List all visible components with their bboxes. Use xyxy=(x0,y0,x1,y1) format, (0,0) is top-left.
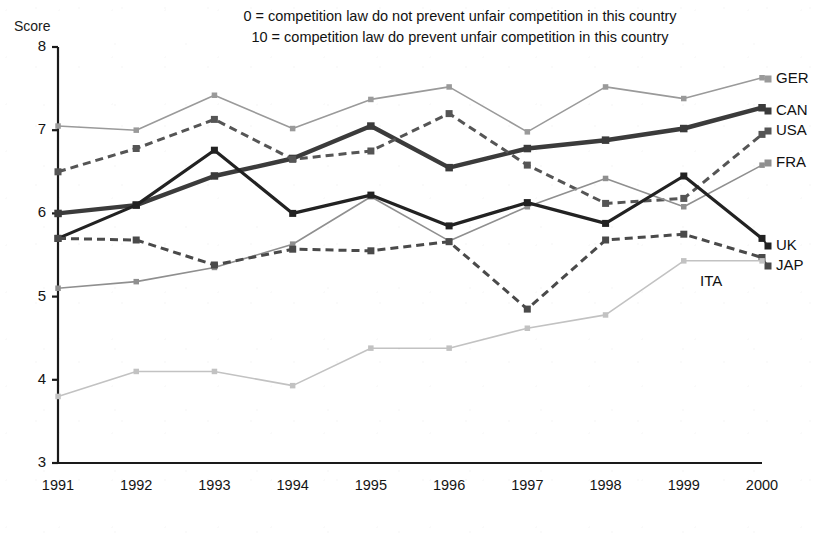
series-inline-label-ita: ITA xyxy=(700,272,722,289)
series-marker-jap xyxy=(602,237,609,244)
legend-marker-usa xyxy=(765,128,772,135)
x-tick-label: 1998 xyxy=(576,477,636,493)
series-marker-ita xyxy=(212,369,218,375)
series-marker-ita xyxy=(681,258,687,264)
series-marker-can xyxy=(54,210,62,218)
series-marker-can xyxy=(680,125,688,133)
series-marker-ger xyxy=(681,96,687,102)
series-marker-ita xyxy=(603,312,609,318)
series-marker-jap xyxy=(211,262,218,269)
series-marker-can xyxy=(445,164,453,172)
series-marker-ita xyxy=(134,369,140,375)
x-tick-label: 1992 xyxy=(106,477,166,493)
y-tick-label: 7 xyxy=(12,120,46,137)
series-label-uk: UK xyxy=(776,236,797,253)
series-marker-usa xyxy=(680,195,687,202)
series-label-ger: GER xyxy=(776,69,809,86)
series-marker-jap xyxy=(133,237,140,244)
legend-marker-can xyxy=(765,108,772,115)
series-marker-fra xyxy=(681,204,687,210)
series-marker-ita xyxy=(446,345,452,351)
series-marker-fra xyxy=(55,286,61,292)
series-marker-fra xyxy=(603,176,609,182)
y-tick-label: 3 xyxy=(12,453,46,470)
axes xyxy=(52,47,762,463)
series-marker-jap xyxy=(55,235,62,242)
series-marker-uk xyxy=(211,147,218,154)
series-marker-ger xyxy=(134,127,140,132)
series-marker-jap xyxy=(367,247,374,254)
y-tick-label: 6 xyxy=(12,203,46,220)
series-marker-uk xyxy=(524,199,531,206)
x-tick-label: 1996 xyxy=(419,477,479,493)
series-marker-ger xyxy=(525,129,531,135)
legend-marker-ger xyxy=(765,76,772,83)
x-tick-label: 1991 xyxy=(28,477,88,493)
series-marker-can xyxy=(524,145,532,153)
series-marker-uk xyxy=(602,220,609,227)
series-marker-usa xyxy=(133,145,140,152)
series-line-jap xyxy=(58,234,762,309)
series-label-can: CAN xyxy=(776,101,808,118)
legend-marker-jap xyxy=(765,263,772,270)
series-marker-ger xyxy=(212,93,218,99)
series-marker-ita xyxy=(368,345,374,351)
y-tick-label: 4 xyxy=(12,370,46,387)
series-marker-usa xyxy=(602,200,609,207)
series-marker-jap xyxy=(524,306,531,313)
series-marker-fra xyxy=(134,279,140,285)
y-tick-label: 8 xyxy=(12,37,46,54)
series-marker-ita xyxy=(290,383,296,389)
series-marker-ita xyxy=(525,326,531,332)
series-marker-ger xyxy=(55,123,61,129)
x-tick-label: 1997 xyxy=(497,477,557,493)
plot-area xyxy=(0,0,822,535)
legend-marker-uk xyxy=(765,243,772,250)
series-marker-ger xyxy=(446,84,452,90)
series-line-ger xyxy=(58,78,762,132)
series-marker-ger xyxy=(368,97,374,103)
series-marker-usa xyxy=(759,131,766,138)
series-marker-can xyxy=(211,172,219,180)
series-marker-usa xyxy=(289,156,296,163)
series-label-jap: JAP xyxy=(776,256,804,273)
series-marker-usa xyxy=(211,116,218,123)
y-tick-label: 5 xyxy=(12,287,46,304)
series-marker-usa xyxy=(55,168,62,175)
series-marker-uk xyxy=(446,222,453,229)
series-marker-usa xyxy=(524,162,531,169)
series-label-fra: FRA xyxy=(776,153,806,170)
x-tick-label: 2000 xyxy=(732,477,792,493)
series-marker-jap xyxy=(446,238,453,245)
series-marker-ita xyxy=(759,258,765,264)
series-marker-ger xyxy=(603,84,609,90)
series-label-usa: USA xyxy=(776,121,807,138)
series-lines xyxy=(54,75,771,399)
series-marker-jap xyxy=(289,246,296,253)
series-marker-uk xyxy=(367,192,374,199)
x-tick-label: 1993 xyxy=(184,477,244,493)
series-marker-can xyxy=(367,122,375,130)
series-marker-ita xyxy=(55,394,61,400)
legend-marker-fra xyxy=(765,160,772,167)
series-line-usa xyxy=(58,114,762,204)
series-marker-uk xyxy=(133,202,140,209)
series-marker-usa xyxy=(367,148,374,155)
series-marker-uk xyxy=(289,210,296,217)
series-marker-uk xyxy=(680,173,687,180)
series-marker-usa xyxy=(446,110,453,117)
series-marker-jap xyxy=(680,231,687,238)
series-line-fra xyxy=(58,165,762,288)
series-marker-ger xyxy=(290,126,296,132)
x-tick-label: 1995 xyxy=(341,477,401,493)
line-chart: Score 0 = competition law do not prevent… xyxy=(0,0,822,535)
x-tick-label: 1994 xyxy=(263,477,323,493)
series-line-ita xyxy=(58,261,762,397)
x-tick-label: 1999 xyxy=(654,477,714,493)
series-marker-can xyxy=(602,136,610,144)
